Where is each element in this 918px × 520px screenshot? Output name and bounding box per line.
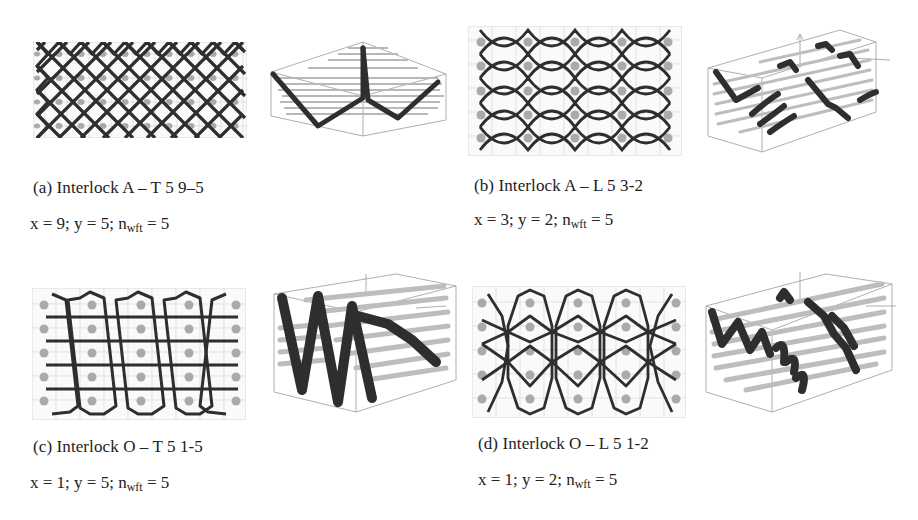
panel-c-params: x = 1; y = 5; nwft = 5 (30, 473, 169, 495)
panel-d-xy: x = 1; y = 2; (478, 470, 566, 489)
panel-c-n-val: = 5 (143, 473, 170, 492)
panel-b-3d-model (700, 28, 900, 158)
panel-b-n: n (562, 210, 571, 229)
panel-b-caption: (b) Interlock A – L 5 3-2 (474, 176, 643, 196)
panel-c-n: n (118, 473, 127, 492)
panel-b-2d-pattern (468, 26, 682, 156)
panel-d-n: n (566, 470, 575, 489)
panel-c-caption: (c) Interlock O – T 5 1-5 (33, 437, 203, 457)
panel-c-3d-model (266, 272, 462, 420)
panel-c-2d-pattern (32, 288, 246, 420)
panel-d-2d-pattern (472, 286, 686, 418)
panel-d-params: x = 1; y = 2; nwft = 5 (478, 470, 617, 492)
panel-a-n: n (118, 214, 127, 233)
panel-c-n-sub: wft (127, 480, 143, 494)
panel-b-n-sub: wft (571, 217, 587, 231)
panel-a-2d-pattern (33, 42, 247, 138)
panel-a-n-val: = 5 (143, 214, 170, 233)
panel-b-n-val: = 5 (587, 210, 614, 229)
panel-b-params: x = 3; y = 2; nwft = 5 (474, 210, 613, 232)
panel-a-params: x = 9; y = 5; nwft = 5 (30, 214, 169, 236)
panel-a-3d-model (268, 38, 448, 138)
panel-a-caption: (a) Interlock A – T 5 9–5 (33, 178, 204, 198)
panel-d-n-sub: wft (575, 477, 591, 491)
panel-d-3d-model (696, 272, 896, 418)
panel-d-n-val: = 5 (591, 470, 618, 489)
panel-b-xy: x = 3; y = 2; (474, 210, 562, 229)
panel-c-xy: x = 1; y = 5; (30, 473, 118, 492)
panel-d-caption: (d) Interlock O – L 5 1-2 (478, 434, 649, 454)
panel-a-n-sub: wft (127, 221, 143, 235)
panel-a-xy: x = 9; y = 5; (30, 214, 118, 233)
